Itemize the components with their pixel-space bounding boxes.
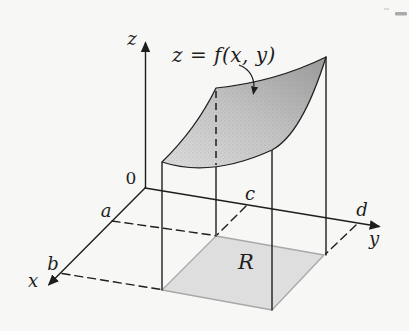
x-axis-label: x [28,272,38,290]
page-edge-mark [395,12,407,16]
tick-label-b: b [47,255,59,273]
dash-c-to-region [218,206,247,235]
figure-surface-over-region: z = f(x, y) z y x 0 a b c d R [0,0,409,331]
region-label: R [238,252,254,273]
dash-a-to-region [112,221,215,236]
dash-d-to-region [326,225,357,254]
tick-label-c: c [245,185,255,203]
x-axis [49,188,145,285]
origin-label: 0 [126,170,137,187]
y-axis [145,188,379,227]
surface-stipple-texture [162,57,326,168]
tick-label-d: d [356,201,368,219]
z-axis-label: z [127,30,136,48]
equation-label: z = f(x, y) [172,45,276,65]
dash-b-to-region [62,274,161,290]
y-axis-label: y [369,230,379,248]
tick-label-a: a [101,202,112,220]
page-edge-speck [384,8,389,10]
